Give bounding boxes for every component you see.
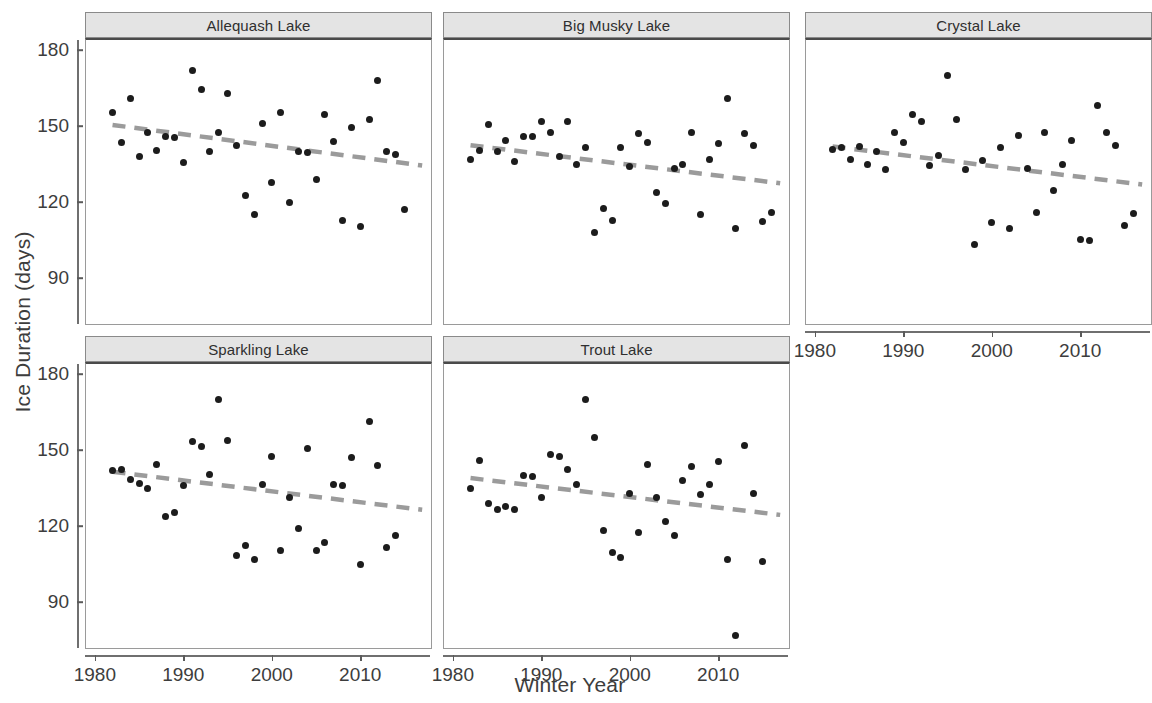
data-point xyxy=(891,129,898,136)
y-tick-mark xyxy=(77,373,83,375)
x-tick-mark xyxy=(272,655,274,661)
data-point xyxy=(706,156,713,163)
data-point xyxy=(671,532,678,539)
data-point xyxy=(118,466,125,473)
y-tick-label: 90 xyxy=(17,591,69,613)
data-point xyxy=(109,467,116,474)
data-point xyxy=(189,67,196,74)
facet-panel: Big Musky Lake xyxy=(443,12,790,325)
facet-strip-label: Sparkling Lake xyxy=(85,336,432,362)
data-point xyxy=(109,109,116,116)
data-point xyxy=(918,118,925,125)
x-tick-label: 2000 xyxy=(957,340,1027,362)
data-point xyxy=(556,453,563,460)
x-axis-line xyxy=(85,655,430,657)
data-point xyxy=(768,209,775,216)
data-point xyxy=(724,95,731,102)
data-point xyxy=(900,139,907,146)
data-point xyxy=(392,532,399,539)
data-point xyxy=(582,396,589,403)
trend-line xyxy=(806,40,1151,324)
x-tick-mark xyxy=(718,655,720,661)
y-tick-mark xyxy=(77,278,83,280)
y-tick-mark xyxy=(77,602,83,604)
data-point xyxy=(1015,132,1022,139)
data-point xyxy=(127,95,134,102)
data-point xyxy=(171,509,178,516)
data-point xyxy=(180,482,187,489)
data-point xyxy=(366,116,373,123)
x-tick-mark xyxy=(541,655,543,661)
facet-strip-label: Big Musky Lake xyxy=(443,12,790,38)
data-point xyxy=(971,241,978,248)
data-point xyxy=(653,189,660,196)
data-point xyxy=(189,438,196,445)
y-tick-label: 120 xyxy=(17,515,69,537)
data-point xyxy=(224,90,231,97)
facet-panel: Crystal Lake xyxy=(805,12,1152,325)
data-point xyxy=(1086,237,1093,244)
data-point xyxy=(198,443,205,450)
data-point xyxy=(741,442,748,449)
data-point xyxy=(357,223,364,230)
data-point xyxy=(268,179,275,186)
data-point xyxy=(591,434,598,441)
data-point xyxy=(829,146,836,153)
x-tick-mark xyxy=(360,655,362,661)
data-point xyxy=(653,494,660,501)
x-tick-label: 1990 xyxy=(148,664,218,686)
data-point xyxy=(313,176,320,183)
data-point xyxy=(313,547,320,554)
data-point xyxy=(600,205,607,212)
data-point xyxy=(485,500,492,507)
data-point xyxy=(295,148,302,155)
y-axis-line xyxy=(77,40,79,324)
data-point xyxy=(136,480,143,487)
x-axis-line xyxy=(805,331,1150,333)
data-point xyxy=(724,556,731,563)
data-point xyxy=(277,109,284,116)
data-point xyxy=(357,561,364,568)
data-point xyxy=(233,552,240,559)
data-point xyxy=(162,133,169,140)
plot-area xyxy=(443,38,790,325)
y-tick-label: 90 xyxy=(17,267,69,289)
data-point xyxy=(251,556,258,563)
data-point xyxy=(476,457,483,464)
data-point xyxy=(494,506,501,513)
trend-line xyxy=(86,364,431,648)
x-tick-mark xyxy=(1080,331,1082,337)
x-tick-label: 1980 xyxy=(780,340,850,362)
y-tick-mark xyxy=(77,449,83,451)
facet-panel: Sparkling Lake xyxy=(85,336,432,649)
x-tick-mark xyxy=(95,655,97,661)
y-tick-label: 150 xyxy=(17,439,69,461)
data-point xyxy=(856,143,863,150)
data-point xyxy=(467,485,474,492)
data-point xyxy=(715,458,722,465)
data-point xyxy=(118,139,125,146)
x-tick-label: 1990 xyxy=(868,340,938,362)
x-tick-label: 2000 xyxy=(237,664,307,686)
data-point xyxy=(1112,142,1119,149)
data-point xyxy=(547,129,554,136)
plot-area xyxy=(85,362,432,649)
x-tick-mark xyxy=(992,331,994,337)
data-point xyxy=(573,161,580,168)
y-tick-mark xyxy=(77,201,83,203)
data-point xyxy=(1059,161,1066,168)
x-tick-label: 2010 xyxy=(1045,340,1115,362)
data-point xyxy=(750,490,757,497)
data-point xyxy=(662,518,669,525)
data-point xyxy=(520,133,527,140)
data-point xyxy=(233,142,240,149)
data-point xyxy=(759,218,766,225)
x-axis-line xyxy=(443,655,788,657)
data-point xyxy=(1033,209,1040,216)
data-point xyxy=(538,494,545,501)
data-point xyxy=(392,151,399,158)
data-point xyxy=(882,166,889,173)
data-point xyxy=(564,118,571,125)
facet-strip-label: Allequash Lake xyxy=(85,12,432,38)
